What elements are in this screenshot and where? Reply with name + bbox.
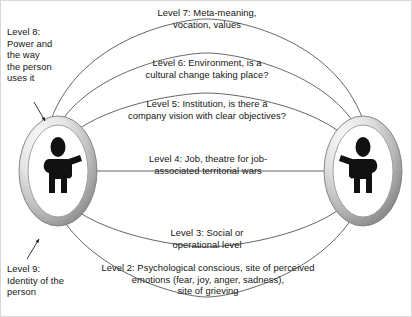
- level9-pointer-arrow: [27, 239, 39, 259]
- label-level2: Level 2: Psychological conscious, site o…: [79, 262, 337, 297]
- level8-pointer-arrow: [34, 102, 45, 121]
- label-level6: Level 6: Environment, is a cultural chan…: [117, 57, 297, 80]
- label-level3: Level 3: Social or operational level: [147, 227, 267, 250]
- label-level8: Level 8: Power and the way the person us…: [7, 26, 69, 84]
- person-right-medallion: [324, 116, 402, 226]
- label-level7: Level 7: Meta-meaning, vocation, values: [127, 7, 287, 30]
- label-level9: Level 9: Identity of the person: [7, 263, 77, 298]
- label-level4: Level 4: Job, theatre for job- associate…: [128, 153, 288, 176]
- diagram-canvas: Level 7: Meta-meaning, vocation, values …: [0, 0, 412, 317]
- person-left-medallion: [19, 116, 97, 226]
- label-level5: Level 5: Institution, is there a company…: [97, 98, 317, 121]
